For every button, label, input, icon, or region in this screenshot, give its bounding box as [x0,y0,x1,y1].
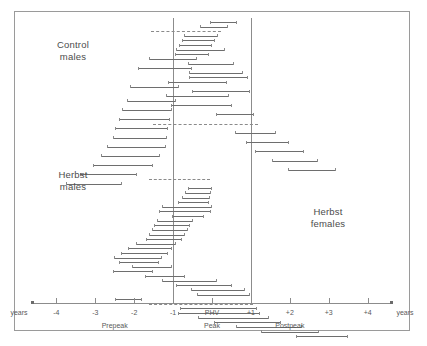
interval-row [93,165,151,166]
interval-row [185,193,210,194]
interval-row [171,105,231,106]
interval-row [101,156,159,157]
interval-endpoint-tick [157,219,158,222]
interval-endpoint-tick [227,25,228,28]
interval-endpoint-tick [317,159,318,162]
interval-row [191,290,244,291]
interval-endpoint-tick [209,196,210,199]
caption-herbst-females: Herbst females [298,206,358,229]
interval-row [130,87,177,88]
interval-row [127,101,175,102]
interval-row [153,124,258,125]
axis-tick-label: -2 [131,309,137,316]
interval-endpoint-tick [107,145,108,148]
interval-endpoint-tick [233,62,234,65]
axis-endcap [390,301,393,304]
axis-tick-label: +4 [364,309,372,316]
x-axis: -4-3-2-1PHV+1+2+3+4PrepeakPeakPostpeakye… [15,294,411,340]
interval-row [166,96,228,97]
interval-row [210,22,236,23]
axis-phase-label: Postpeak [275,322,304,329]
interval-endpoint-tick [115,127,116,130]
interval-endpoint-tick [149,57,150,60]
vline-plus1 [251,18,252,304]
interval-row [145,276,184,277]
interval-endpoint-tick [191,288,192,291]
interval-endpoint-tick [159,154,160,157]
axis-endcap [31,301,34,304]
interval-endpoint-tick [166,94,167,97]
interval-endpoint-tick [184,275,185,278]
interval-row [119,262,158,263]
interval-row [288,170,335,171]
interval-row [168,82,225,83]
interval-endpoint-tick [152,228,153,231]
interval-row [121,253,168,254]
interval-row [184,36,217,37]
interval-row [189,77,247,78]
interval-endpoint-tick [149,233,150,236]
interval-row [146,239,181,240]
axis-tick [173,298,174,304]
interval-row [176,50,223,51]
axis-tick-label: PHV [205,309,219,316]
interval-endpoint-tick [187,228,188,231]
interval-endpoint-tick [179,44,180,47]
interval-endpoint-tick [226,81,227,84]
interval-endpoint-tick [188,187,189,190]
interval-endpoint-tick [130,85,131,88]
interval-row [113,138,166,139]
interval-row [255,151,304,152]
interval-endpoint-tick [165,145,166,148]
interval-endpoint-tick [172,215,173,218]
interval-endpoint-tick [138,67,139,70]
interval-row [200,27,226,28]
interval-endpoint-tick [152,270,153,273]
interval-endpoint-tick [119,118,120,121]
axis-tick-label: -1 [170,309,176,316]
interval-endpoint-tick [175,99,176,102]
interval-endpoint-tick [185,191,186,194]
interval-endpoint-tick [253,113,254,116]
interval-endpoint-tick [192,219,193,222]
interval-endpoint-tick [208,201,209,204]
axis-tick [329,298,330,304]
interval-endpoint-tick [162,205,163,208]
interval-endpoint-tick [136,242,137,245]
interval-endpoint-tick [113,136,114,139]
interval-row [182,40,214,41]
interval-endpoint-tick [168,81,169,84]
interval-endpoint-tick [162,279,163,282]
interval-endpoint-tick [184,34,185,37]
interval-endpoint-tick [113,270,114,273]
interval-endpoint-tick [154,224,155,227]
interval-row [159,211,210,212]
interval-endpoint-tick [231,104,232,107]
interval-endpoint-tick [203,215,204,218]
interval-row [107,147,165,148]
interval-endpoint-tick [249,90,250,93]
interval-row [149,179,210,180]
interval-endpoint-tick [189,71,190,74]
interval-endpoint-tick [214,39,215,42]
interval-endpoint-tick [247,76,248,79]
interval-endpoint-tick [235,131,236,134]
interval-endpoint-tick [189,76,190,79]
caption-herbst-males: Herbst males [43,169,103,192]
interval-endpoint-tick [228,94,229,97]
interval-row [122,110,171,111]
interval-endpoint-tick [242,71,243,74]
interval-row [162,207,211,208]
interval-row [114,258,161,259]
interval-endpoint-tick [210,210,211,213]
interval-endpoint-tick [178,85,179,88]
interval-endpoint-tick [217,34,218,37]
interval-endpoint-tick [236,21,237,24]
interval-endpoint-tick [167,252,168,255]
interval-row [119,119,169,120]
axis-tick [56,298,57,304]
axis-phase-label: Peak [204,322,220,329]
interval-endpoint-tick [211,187,212,190]
interval-endpoint-tick [200,25,201,28]
interval-endpoint-tick [224,48,225,51]
